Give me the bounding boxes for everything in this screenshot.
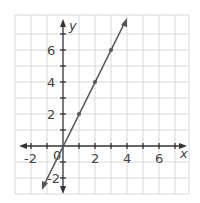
y-axis-up-arrow-icon	[60, 19, 66, 27]
origin-label: 0	[53, 148, 61, 163]
x-tick-label-4: 4	[123, 151, 131, 166]
x-tick-label-6: 6	[155, 151, 163, 166]
y-axis	[60, 22, 66, 190]
data-point-3-6	[109, 48, 113, 52]
x-tick-label-neg2: -2	[24, 151, 37, 166]
y-tick-label-2: 2	[47, 107, 55, 122]
data-point-1-2	[77, 112, 81, 116]
y-axis-down-arrow-icon	[60, 186, 66, 194]
y-axis-label: y	[68, 18, 77, 33]
grid	[15, 15, 189, 194]
y-tick-label-6: 6	[47, 43, 55, 58]
x-axis	[22, 143, 184, 149]
x-tick-label-2: 2	[91, 151, 99, 166]
x-axis-left-arrow-icon	[19, 143, 27, 149]
x-axis-label: x	[179, 146, 188, 161]
coordinate-graph: y x 6 4 2 -2 -2 2 4 6 0	[0, 0, 200, 203]
y-tick-label-neg2: -2	[47, 171, 60, 186]
line-top-arrow-icon	[121, 18, 127, 27]
y-tick-label-4: 4	[47, 75, 55, 90]
data-point-2-4	[93, 80, 97, 84]
